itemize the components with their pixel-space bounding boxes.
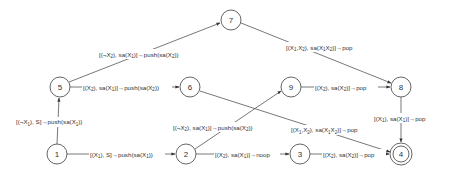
node-9: 9 bbox=[281, 77, 301, 97]
svg-text:5: 5 bbox=[58, 83, 63, 92]
node-6: 6 bbox=[180, 77, 200, 97]
edge-7-8 bbox=[241, 23, 391, 83]
svg-text:3: 3 bbox=[298, 150, 303, 159]
svg-text:6: 6 bbox=[188, 83, 193, 92]
svg-text:9: 9 bbox=[289, 83, 294, 92]
svg-text:1: 1 bbox=[55, 150, 60, 159]
svg-text:4: 4 bbox=[399, 150, 404, 159]
svg-text:7: 7 bbox=[229, 16, 234, 25]
node-4-accepting: 4 bbox=[390, 143, 412, 165]
edge-6-4 bbox=[200, 91, 390, 152]
node-3: 3 bbox=[290, 144, 310, 164]
state-diagram: [(X1), S]→push(sa(X1)) [(¬X1), S]→push(s… bbox=[0, 0, 449, 173]
svg-text:2: 2 bbox=[184, 150, 189, 159]
node-1: 1 bbox=[47, 144, 67, 164]
edge-2-9 bbox=[195, 91, 281, 149]
svg-text:8: 8 bbox=[399, 83, 404, 92]
node-8: 8 bbox=[391, 77, 411, 97]
node-5: 5 bbox=[50, 77, 70, 97]
node-2: 2 bbox=[176, 144, 196, 164]
node-7: 7 bbox=[221, 10, 241, 30]
